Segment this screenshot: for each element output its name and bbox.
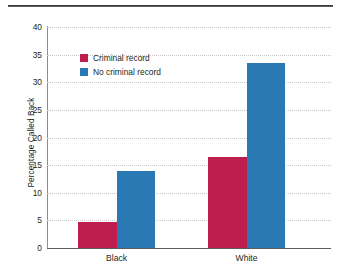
gridline-15 bbox=[47, 165, 331, 167]
gridline-10 bbox=[47, 193, 331, 195]
bar-black-no-criminal-record bbox=[117, 171, 156, 248]
gridline-20 bbox=[47, 138, 331, 140]
y-tick-label: 0 bbox=[37, 243, 42, 253]
legend-swatch-icon bbox=[80, 54, 88, 62]
gridline-25 bbox=[47, 110, 331, 112]
legend-swatch-icon bbox=[80, 68, 88, 76]
legend-label: No criminal record bbox=[93, 67, 161, 77]
gridline-30 bbox=[47, 82, 331, 84]
y-tick-label: 5 bbox=[37, 215, 42, 225]
bar-white-criminal-record bbox=[208, 157, 247, 248]
chart-legend: Criminal recordNo criminal record bbox=[80, 52, 161, 80]
y-tick-label: 30 bbox=[33, 77, 42, 87]
x-axis-spine bbox=[47, 248, 331, 249]
figure-container: Percentage Called Back 0510152025303540 … bbox=[0, 0, 346, 274]
legend-item: No criminal record bbox=[80, 66, 161, 78]
legend-item: Criminal record bbox=[80, 52, 161, 64]
legend-label: Criminal record bbox=[93, 53, 150, 63]
bar-white-no-criminal-record bbox=[247, 63, 286, 248]
y-tick-label: 25 bbox=[33, 105, 42, 115]
bar-chart: Percentage Called Back 0510152025303540 … bbox=[0, 0, 346, 274]
x-tick-label-white: White bbox=[236, 253, 258, 263]
y-tick-label: 15 bbox=[33, 160, 42, 170]
y-tick-label: 20 bbox=[33, 133, 42, 143]
y-tick-label: 35 bbox=[33, 50, 42, 60]
y-tick-label: 40 bbox=[33, 22, 42, 32]
x-tick-label-black: Black bbox=[106, 253, 127, 263]
bar-black-criminal-record bbox=[78, 222, 117, 248]
y-tick-label: 10 bbox=[33, 188, 42, 198]
gridline-40 bbox=[47, 27, 331, 29]
